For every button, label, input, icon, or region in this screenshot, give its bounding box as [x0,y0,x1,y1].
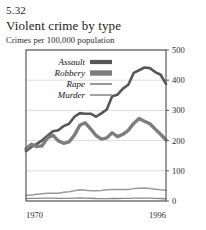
legend-label-murder: Murder [57,90,86,100]
series-line-murder [26,198,166,199]
line-chart: 0100200300400500 19701996 AssaultRobbery… [0,46,206,230]
y-tick-label: 500 [172,46,185,55]
series-line-robbery [26,119,166,150]
legend-label-assault: Assault [57,57,85,67]
legend-label-robbery: Robbery [54,68,86,78]
y-axis-ticks: 0100200300400500 [166,46,185,206]
y-tick-label: 400 [172,75,185,85]
figure-number: 5.32 [6,4,206,17]
series-line-rape [26,188,166,196]
figure-container: 5.32 Violent crime by type Crimes per 10… [0,0,206,230]
figure-subtitle: Crimes per 100,000 population [6,35,206,46]
y-tick-label: 100 [172,166,185,176]
x-tick-label: 1996 [149,210,166,220]
legend-label-rape: Rape [66,79,86,89]
figure-title: Violent crime by type [6,18,206,33]
y-tick-label: 0 [172,196,176,206]
y-tick-label: 200 [172,136,185,146]
y-tick-label: 300 [172,105,185,115]
x-tick-label: 1970 [26,210,43,220]
plot-area: 0100200300400500 19701996 AssaultRobbery… [0,46,206,230]
x-axis-ticks: 19701996 [26,210,166,220]
series-lines [26,68,166,199]
chart-legend: AssaultRobberyRapeMurder [54,57,113,100]
